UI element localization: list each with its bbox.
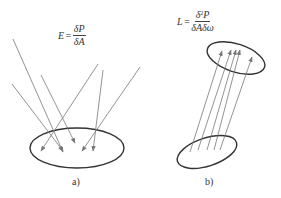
numerator-p: P <box>203 9 209 20</box>
radiance-ray-2 <box>198 50 231 150</box>
panel-b-caption: b) <box>205 176 213 187</box>
target-surface-ellipse-b <box>203 35 269 80</box>
radiance-ray-5 <box>220 57 252 150</box>
formula-lhs-l: L <box>177 17 183 27</box>
panel-b-graphic <box>173 35 269 174</box>
source-surface-ellipse-b <box>173 129 241 175</box>
formula-equals-l: = <box>184 17 191 27</box>
formula-lhs-e: E <box>58 31 64 41</box>
irradiance-formula: E = δP δA <box>58 24 86 47</box>
formula-denominator-e: δA <box>74 36 85 47</box>
formula-numerator-l: δ2P <box>195 10 211 22</box>
incident-ray-4 <box>41 64 98 151</box>
formula-denominator-l: δAδω <box>191 22 213 33</box>
panel-a-graphic <box>12 39 140 168</box>
incident-ray-6 <box>82 67 140 151</box>
panel-a-caption: a) <box>72 176 80 187</box>
surface-element-ellipse-a <box>30 128 124 168</box>
incident-ray-5 <box>93 70 103 151</box>
radiometry-figure: E = δP δA L = δ2P δAδω a) b) <box>0 0 281 198</box>
formula-equals-e: = <box>65 31 72 41</box>
formula-fraction-e: δP δA <box>73 24 86 47</box>
radiance-formula: L = δ2P δAδω <box>177 10 214 33</box>
formula-fraction-l: δ2P δAδω <box>191 10 213 33</box>
formula-numerator-e: δP <box>73 24 86 36</box>
diagram-canvas <box>0 0 281 198</box>
